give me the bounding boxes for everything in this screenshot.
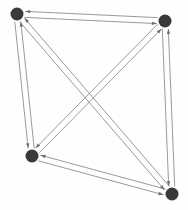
- graph-edge: [25, 11, 158, 17]
- graph-edge: [38, 161, 163, 195]
- graph-edge: [20, 22, 165, 190]
- graph-node[interactable]: [166, 188, 179, 201]
- graph-figure: [0, 0, 188, 210]
- graph-node[interactable]: [11, 8, 24, 21]
- graph-arrowhead: [158, 192, 163, 195]
- graph-edge: [39, 29, 161, 153]
- graph-canvas: [0, 0, 188, 210]
- graph-arrowhead: [152, 22, 157, 25]
- graph-edge: [24, 17, 157, 23]
- graph-arrowhead: [25, 10, 30, 13]
- graph-edge: [21, 22, 34, 149]
- graph-node[interactable]: [26, 150, 39, 163]
- graph-arrowhead: [167, 29, 170, 34]
- graph-edge: [15, 22, 28, 149]
- graph-edge: [168, 29, 174, 187]
- graph-edge: [162, 29, 168, 187]
- graph-edge: [35, 24, 157, 148]
- graph-arrowhead: [41, 155, 46, 158]
- graph-node[interactable]: [159, 15, 172, 28]
- node-layer: [11, 8, 179, 201]
- edge-layer: [15, 10, 175, 195]
